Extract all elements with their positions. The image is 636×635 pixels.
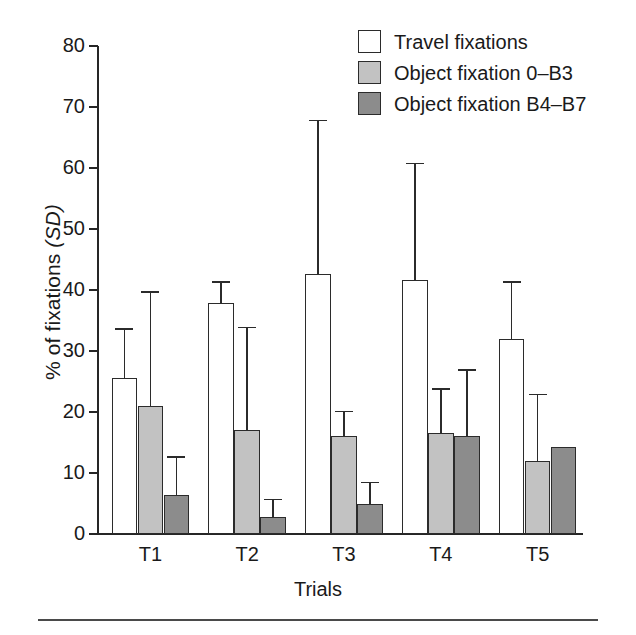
y-axis-tick-label: 40 <box>35 279 85 299</box>
legend-item-2: Object fixation 0–B3 <box>358 57 628 88</box>
legend-label: Travel fixations <box>394 31 528 53</box>
error-bar-stem <box>272 499 274 517</box>
error-bar-t5-series2 <box>529 394 547 461</box>
error-bar-t3-series1 <box>309 120 327 274</box>
bar-t2-series2 <box>234 430 260 534</box>
y-axis-tick <box>89 228 98 230</box>
error-bar-stem <box>150 291 152 406</box>
y-axis-tick-label: 60 <box>35 157 85 177</box>
y-axis-tick <box>89 533 98 535</box>
error-bar-cap <box>309 120 327 122</box>
error-bar-cap <box>238 327 256 329</box>
error-bar-stem <box>537 394 539 461</box>
error-bar-t1-series3 <box>167 456 185 495</box>
y-axis-tick-label: 50 <box>35 218 85 238</box>
y-axis-tick-label: 80 <box>35 35 85 55</box>
legend-item-1: Travel fixations <box>358 26 628 57</box>
bar-t3-series1 <box>305 274 331 534</box>
y-axis-tick <box>89 350 98 352</box>
error-bar-t2-series1 <box>212 281 230 303</box>
error-bar-cap <box>406 163 424 165</box>
error-bar-stem <box>246 327 248 431</box>
bar-t4-series2 <box>428 433 454 534</box>
y-axis-tick-label: 30 <box>35 340 85 360</box>
error-bar-t2-series2 <box>238 327 256 431</box>
bar-t2-series1 <box>208 303 234 534</box>
error-bar-cap <box>503 281 521 283</box>
error-bar-cap <box>432 388 450 390</box>
error-bar-stem <box>220 281 222 303</box>
bar-t1-series1 <box>112 378 138 534</box>
x-axis-label-t3: T3 <box>304 543 384 566</box>
error-bar-cap <box>212 281 230 283</box>
x-axis-label-t5: T5 <box>498 543 578 566</box>
bar-t4-series1 <box>402 280 428 534</box>
error-bar-stem <box>124 328 126 379</box>
chart-legend: Travel fixationsObject fixation 0–B3Obje… <box>358 26 628 119</box>
x-axis-title: Trials <box>0 578 636 601</box>
error-bar-t4-series2 <box>432 388 450 433</box>
error-bar-cap <box>264 499 282 501</box>
error-bar-t4-series1 <box>406 163 424 281</box>
x-axis-label-t4: T4 <box>401 543 481 566</box>
error-bar-t2-series3 <box>264 499 282 517</box>
error-bar-cap <box>361 482 379 484</box>
legend-swatch-icon-dark <box>358 92 381 115</box>
bars-layer <box>99 46 583 534</box>
legend-label: Object fixation B4–B7 <box>394 93 586 115</box>
error-bar-t1-series2 <box>141 291 159 406</box>
y-axis-tick <box>89 106 98 108</box>
caption-divider-rule <box>38 619 598 621</box>
y-axis-tick <box>89 289 98 291</box>
x-axis-label-t1: T1 <box>110 543 190 566</box>
x-axis-label-t2: T2 <box>207 543 287 566</box>
y-axis-tick-label: 10 <box>35 462 85 482</box>
y-axis-tick <box>89 472 98 474</box>
error-bar-stem <box>176 456 178 495</box>
error-bar-stem <box>466 369 468 436</box>
legend-swatch-icon-white <box>358 30 381 53</box>
y-axis-tick-label: 0 <box>35 523 85 543</box>
error-bar-t4-series3 <box>458 369 476 436</box>
error-bar-t1-series1 <box>115 328 133 379</box>
error-bar-stem <box>511 281 513 339</box>
y-axis-tick <box>89 45 98 47</box>
legend-label: Object fixation 0–B3 <box>394 62 573 84</box>
y-axis-tick-label: 70 <box>35 96 85 116</box>
bar-t5-series1 <box>499 339 525 534</box>
error-bar-cap <box>167 456 185 458</box>
error-bar-cap <box>458 369 476 371</box>
bar-t3-series2 <box>331 436 357 534</box>
y-axis-tick-label: 20 <box>35 401 85 421</box>
error-bar-stem <box>343 411 345 437</box>
bar-t5-series3 <box>551 447 577 534</box>
figure-bar-chart: % of fixations (SD) 01020304050607080 T1… <box>0 0 636 635</box>
bar-t4-series3 <box>454 436 480 534</box>
error-bar-stem <box>317 120 319 274</box>
bar-t2-series3 <box>260 517 286 534</box>
bar-t1-series3 <box>164 495 190 534</box>
error-bar-stem <box>369 482 371 505</box>
error-bar-t5-series1 <box>503 281 521 339</box>
y-axis-tick <box>89 167 98 169</box>
y-axis-tick <box>89 411 98 413</box>
legend-swatch-icon-light <box>358 61 381 84</box>
legend-item-3: Object fixation B4–B7 <box>358 88 628 119</box>
error-bar-t3-series2 <box>335 411 353 437</box>
error-bar-cap <box>115 328 133 330</box>
bar-t3-series3 <box>357 504 383 534</box>
error-bar-t3-series3 <box>361 482 379 505</box>
bar-t5-series2 <box>525 461 551 534</box>
error-bar-stem <box>414 163 416 281</box>
error-bar-cap <box>335 411 353 413</box>
error-bar-stem <box>440 388 442 433</box>
y-axis-title-plain: % of fixations <box>41 254 64 380</box>
error-bar-cap <box>141 291 159 293</box>
error-bar-cap <box>529 394 547 396</box>
bar-t1-series2 <box>138 406 164 534</box>
